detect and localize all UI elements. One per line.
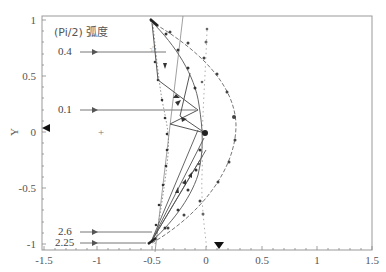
x-tick-label: -0.5 — [143, 254, 161, 266]
y-tick-label: 1 — [31, 14, 37, 26]
y-axis — [42, 20, 46, 244]
x-tick-label: 0 — [203, 254, 209, 266]
y-tick-label: -0.5 — [19, 182, 37, 194]
annotation-label: 2.25 — [55, 236, 75, 248]
chart: 1 0.5 0 -0.5 -1 Y -1.5 -1 -0.5 0 0.5 1 1… — [0, 0, 386, 272]
down-triangle-marker — [214, 242, 224, 249]
left-triangle-marker — [42, 124, 50, 132]
x-tick-label: 0.5 — [255, 254, 269, 266]
x-axis — [44, 246, 372, 250]
x-tick-label: 1 — [314, 254, 320, 266]
top-cluster — [150, 19, 158, 26]
x-tick-label: -1 — [92, 254, 101, 266]
series-inner-arc — [150, 22, 202, 243]
star-marker: ☆ — [149, 44, 157, 54]
x-tick-label: 1.5 — [365, 254, 379, 266]
x-tick-label: -1.5 — [35, 254, 53, 266]
annotation-label: 0.4 — [58, 45, 72, 57]
annotations — [80, 49, 196, 246]
chart-title: (Pi/2) 弧度 — [54, 25, 108, 39]
annotation-label: 0.1 — [58, 103, 72, 115]
series-outer-arc — [150, 21, 236, 243]
series-straight-line — [155, 16, 183, 252]
y-tick-label: 0.5 — [22, 70, 36, 82]
plus-marker: + — [98, 126, 104, 138]
center-cluster — [202, 130, 208, 136]
y-axis-label: Y — [8, 128, 20, 136]
y-tick-label: 0 — [31, 126, 37, 138]
y-tick-label: -1 — [27, 238, 36, 250]
